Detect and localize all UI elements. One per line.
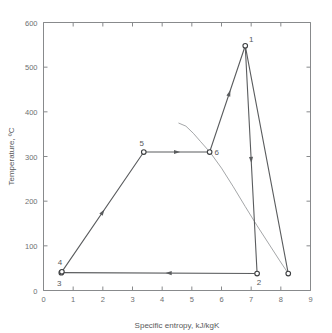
state-point-label-4: 4 — [58, 258, 63, 267]
process-line-2-to-3 — [61, 273, 257, 274]
y-tick-label-0: 0 — [33, 287, 37, 296]
y-tick-label-200: 200 — [25, 197, 38, 206]
x-axis-title: Specific entropy, kJ/kgK — [135, 321, 220, 330]
x-tick-label-3: 3 — [130, 295, 134, 304]
axis-frame-left-bottom — [44, 23, 311, 291]
x-tick-label-0: 0 — [41, 295, 45, 304]
state-point-1[interactable] — [243, 43, 248, 48]
y-tick-label-600: 600 — [25, 19, 38, 28]
x-tick-label-1: 1 — [71, 295, 75, 304]
state-point-label-3: 3 — [57, 279, 62, 288]
y-tick-label-500: 500 — [25, 63, 38, 72]
x-tick-label-8: 8 — [279, 295, 283, 304]
x-tick-label-6: 6 — [219, 295, 223, 304]
state-point-5[interactable] — [141, 150, 146, 155]
state-point-6[interactable] — [207, 150, 212, 155]
flow-arrow — [166, 271, 172, 275]
state-point-2[interactable] — [255, 271, 260, 276]
flow-arrow — [249, 157, 253, 163]
y-tick-label-100: 100 — [25, 242, 38, 251]
y-tick-label-400: 400 — [25, 108, 38, 117]
flow-arrow — [99, 210, 104, 216]
y-tick-label-300: 300 — [25, 153, 38, 162]
process-line-6-to-1 — [210, 46, 246, 152]
state-point-label-1: 1 — [249, 35, 254, 44]
axis-frame-top-right — [44, 23, 311, 291]
saturated-vapour-line — [178, 123, 288, 274]
flow-arrow — [226, 90, 230, 96]
state-point-4[interactable] — [60, 269, 65, 274]
x-tick-label-2: 2 — [101, 295, 105, 304]
x-tick-label-4: 4 — [160, 295, 164, 304]
state-point-label-5: 5 — [140, 139, 145, 148]
ts-diagram-chart: 01002003004005006000123456789Specific en… — [0, 0, 332, 333]
state-point-label-6: 6 — [214, 148, 219, 157]
saturated-vapour-end-point[interactable] — [286, 271, 291, 276]
y-axis-title: Temperature, ºC — [7, 127, 16, 185]
state-point-label-2: 2 — [257, 278, 262, 287]
x-tick-label-5: 5 — [190, 295, 194, 304]
x-tick-label-7: 7 — [249, 295, 253, 304]
flow-arrow — [174, 150, 180, 154]
x-tick-label-9: 9 — [308, 295, 312, 304]
plot-area: 01002003004005006000123456789Specific en… — [0, 0, 332, 333]
